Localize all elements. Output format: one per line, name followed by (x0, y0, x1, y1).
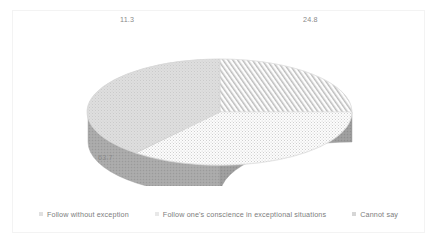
data-label-cannot-say: 11.3 (120, 15, 134, 24)
pie-svg (86, 26, 354, 186)
data-label-follow-conscience: 63.7 (98, 153, 113, 162)
pie-slice-follow-without-exception (220, 59, 352, 112)
legend-swatch-icon (352, 212, 356, 216)
legend-item-cannot-say[interactable]: Cannot say (352, 210, 398, 219)
chart-legend: Follow without exception Follow one's co… (12, 206, 425, 222)
legend-item-follow-conscience[interactable]: Follow one's conscience in exceptional s… (155, 210, 326, 219)
legend-item-label: Follow one's conscience in exceptional s… (163, 210, 326, 219)
pie-graphic (86, 26, 354, 186)
data-label-follow-without-exception: 24.8 (303, 15, 318, 24)
legend-item-follow-without-exception[interactable]: Follow without exception (39, 210, 129, 219)
legend-swatch-icon (39, 212, 43, 216)
legend-item-label: Cannot say (360, 210, 398, 219)
pie-chart-figure: 11.3 24.8 63.7 Follow without exception … (0, 0, 439, 243)
legend-item-label: Follow without exception (47, 210, 129, 219)
legend-swatch-icon (155, 212, 159, 216)
